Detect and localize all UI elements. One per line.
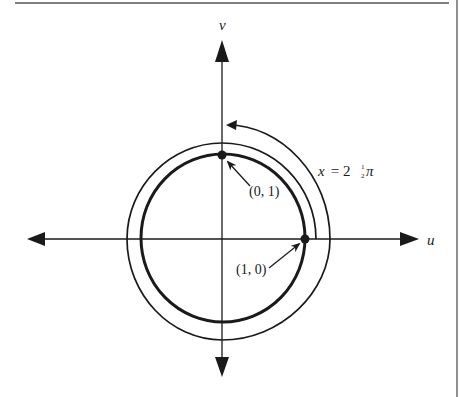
point-0-1 bbox=[218, 151, 227, 160]
u-axis-left-arrowhead bbox=[27, 232, 45, 246]
v-axis-label: v bbox=[219, 17, 226, 33]
svg-text:2: 2 bbox=[361, 172, 365, 180]
v-axis-bottom-arrowhead bbox=[215, 357, 229, 377]
v-axis-top-arrowhead bbox=[215, 40, 229, 62]
v-axis bbox=[215, 40, 229, 377]
svg-text:π: π bbox=[366, 163, 374, 179]
pointer-arrow-0-1 bbox=[228, 162, 250, 186]
point-1-0 bbox=[301, 235, 310, 244]
u-axis-label: u bbox=[427, 232, 435, 248]
svg-text:x: x bbox=[317, 163, 325, 179]
unit-circle-diagram: v u (0, 1) (1, 0) x = 2 1 2 π bbox=[0, 0, 461, 397]
unit-circle bbox=[141, 154, 305, 322]
winding-label: x = 2 1 2 π bbox=[317, 163, 374, 180]
u-axis-right-arrowhead bbox=[400, 232, 419, 246]
point-label-1-0: (1, 0) bbox=[236, 262, 267, 278]
u-axis bbox=[27, 232, 419, 246]
winding-spiral bbox=[127, 125, 330, 340]
pointer-arrow-1-0 bbox=[269, 244, 299, 268]
point-label-0-1: (0, 1) bbox=[249, 184, 280, 200]
winding-arrowhead bbox=[226, 120, 237, 130]
svg-text:= 2: = 2 bbox=[327, 163, 350, 179]
fraction: 1 bbox=[361, 163, 365, 171]
